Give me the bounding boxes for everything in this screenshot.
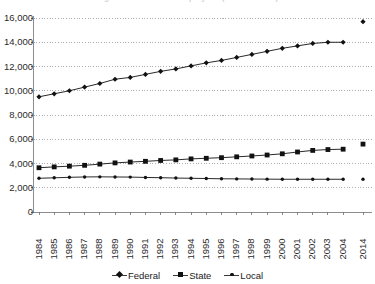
data-point xyxy=(281,178,284,181)
data-point xyxy=(205,177,208,180)
x-axis-tick-label: 1991 xyxy=(139,238,149,259)
data-point xyxy=(97,162,102,167)
data-point xyxy=(143,72,148,77)
data-point xyxy=(189,156,194,161)
x-axis-tick-label: 1994 xyxy=(185,238,195,259)
data-point-2014 xyxy=(360,19,365,24)
line-chart: Figure 1. Number of Employees (in thousa… xyxy=(0,0,375,284)
legend-item-federal[interactable]: Federal xyxy=(112,270,160,281)
x-axis-tick-label: 2014 xyxy=(357,238,367,259)
x-axis-tick-label: 1989 xyxy=(109,238,119,259)
data-point xyxy=(67,164,72,169)
data-point xyxy=(234,154,239,159)
x-axis-tick-label: 1990 xyxy=(124,238,134,259)
data-point xyxy=(188,63,193,68)
data-point xyxy=(265,153,270,158)
data-point xyxy=(250,177,253,180)
data-point xyxy=(280,46,285,51)
data-point xyxy=(112,77,117,82)
data-point xyxy=(53,176,56,179)
x-axis-tick-label: 1997 xyxy=(231,238,241,259)
x-axis-tick-label: 1986 xyxy=(63,238,73,259)
data-point xyxy=(144,176,147,179)
data-point xyxy=(341,40,346,45)
data-point xyxy=(174,176,177,179)
chart-legend: FederalStateLocal xyxy=(0,268,375,282)
data-point xyxy=(326,178,329,181)
data-point xyxy=(67,88,72,93)
data-point xyxy=(36,94,41,99)
data-point xyxy=(295,43,300,48)
data-point xyxy=(204,60,209,65)
data-point xyxy=(220,177,223,180)
data-point xyxy=(113,160,118,165)
x-axis-tick-label: 1993 xyxy=(170,238,180,259)
data-point xyxy=(249,52,254,57)
data-point xyxy=(280,151,285,156)
data-point xyxy=(234,55,239,60)
x-axis-tick-label: 1992 xyxy=(155,238,165,259)
x-axis-tick-label: 1996 xyxy=(215,238,225,259)
data-point xyxy=(159,176,162,179)
data-point xyxy=(219,155,224,160)
data-point xyxy=(173,66,178,71)
x-axis-tick-label: 1987 xyxy=(79,238,89,259)
data-point xyxy=(341,147,346,152)
legend-item-local[interactable]: Local xyxy=(224,270,263,281)
data-point xyxy=(296,178,299,181)
data-point xyxy=(83,175,86,178)
data-point xyxy=(310,148,315,153)
x-axis-tick-label: 1985 xyxy=(48,238,58,259)
x-axis-tick-label: 1988 xyxy=(94,238,104,259)
data-point xyxy=(325,40,330,45)
data-point xyxy=(204,156,209,161)
data-point xyxy=(52,91,57,96)
x-axis-tick-label: 1995 xyxy=(200,238,210,259)
data-point xyxy=(98,175,101,178)
data-point xyxy=(158,158,163,163)
x-axis-tick-label: 1984 xyxy=(33,238,43,259)
data-point xyxy=(341,178,344,181)
data-point xyxy=(128,75,133,80)
data-point xyxy=(326,147,331,152)
data-point xyxy=(235,177,238,180)
data-point xyxy=(68,176,71,179)
data-point xyxy=(249,154,254,159)
x-axis-tick-label: 1998 xyxy=(246,238,256,259)
dot-marker-icon xyxy=(224,271,239,280)
x-axis-tick-label: 2004 xyxy=(337,238,347,259)
square-marker-icon xyxy=(173,271,188,280)
data-point xyxy=(113,175,116,178)
data-point xyxy=(295,150,300,155)
legend-label: Federal xyxy=(128,270,160,281)
data-point xyxy=(143,159,148,164)
data-point xyxy=(310,41,315,46)
data-point xyxy=(219,58,224,63)
data-point xyxy=(173,157,178,162)
diamond-marker-icon xyxy=(112,271,127,280)
legend-label: State xyxy=(189,270,211,281)
data-point xyxy=(82,163,87,168)
data-point xyxy=(265,177,268,180)
x-axis-tick-label: 2000 xyxy=(276,238,286,259)
data-point xyxy=(189,177,192,180)
x-axis-tick-label: 2002 xyxy=(307,238,317,259)
data-point-2014 xyxy=(361,142,366,147)
data-point xyxy=(265,49,270,54)
x-axis-tick-label: 2003 xyxy=(322,238,332,259)
data-point xyxy=(158,69,163,74)
legend-item-state[interactable]: State xyxy=(173,270,211,281)
data-point xyxy=(311,178,314,181)
x-axis-tick-label: 2001 xyxy=(292,238,302,259)
data-point xyxy=(37,177,40,180)
data-point xyxy=(97,81,102,86)
data-point xyxy=(82,85,87,90)
x-axis: 1984198519861987198819891990199119921993… xyxy=(0,214,375,260)
data-point xyxy=(37,165,42,170)
data-point xyxy=(129,175,132,178)
data-point-2014 xyxy=(361,178,364,181)
data-point xyxy=(128,160,133,165)
data-point xyxy=(52,164,57,169)
x-axis-tick-label: 1999 xyxy=(261,238,271,259)
legend-label: Local xyxy=(240,270,263,281)
